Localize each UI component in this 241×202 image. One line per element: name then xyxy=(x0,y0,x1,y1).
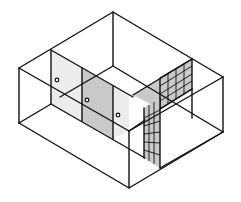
front-vertical-grid-wall xyxy=(144,98,160,168)
door-knob-icon xyxy=(55,78,59,82)
door-knob-icon xyxy=(116,113,120,117)
back-right-grid-wall xyxy=(160,59,192,109)
door-knob-icon xyxy=(85,98,89,102)
door-panel-left xyxy=(51,50,82,121)
diagram-canvas xyxy=(0,0,241,202)
isometric-box-diagram xyxy=(0,0,241,202)
door-panel-middle-shaded xyxy=(82,68,113,139)
